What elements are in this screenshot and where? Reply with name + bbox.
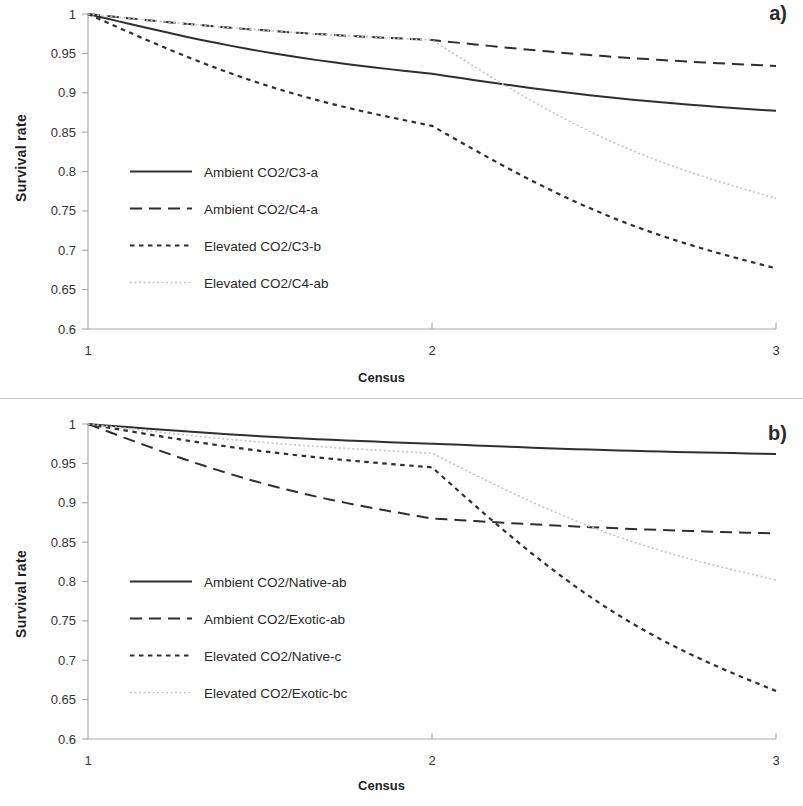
x-tick-label: 1 <box>84 343 91 358</box>
legend-label: Elevated CO2/Exotic-bc <box>204 686 348 701</box>
panel-a: a) Survival rate Census 10.950.90.850.80… <box>0 0 803 400</box>
legend-label: Ambient CO2/C3-a <box>204 165 319 180</box>
legend-label: Elevated CO2/C4-ab <box>204 276 329 291</box>
y-tick-label: 0.95 <box>51 456 76 471</box>
series-line <box>88 424 776 454</box>
y-tick-label: 0.85 <box>51 125 76 140</box>
y-tick-label: 0.6 <box>58 322 76 337</box>
y-tick-label: 0.65 <box>51 282 76 297</box>
panel-b-plot: 10.950.90.850.80.750.70.650.6123Ambient … <box>0 400 803 770</box>
panel-a-plot: 10.950.90.850.80.750.70.650.6123Ambient … <box>0 0 803 360</box>
legend-label: Elevated CO2/Native-c <box>204 649 342 664</box>
y-tick-label: 0.6 <box>58 732 76 747</box>
series-line <box>88 424 776 580</box>
y-tick-label: 0.7 <box>58 243 76 258</box>
y-tick-label: 0.7 <box>58 653 76 668</box>
y-tick-label: 0.75 <box>51 203 76 218</box>
x-tick-label: 1 <box>84 753 91 768</box>
legend-label: Ambient CO2/Exotic-ab <box>204 612 345 627</box>
y-tick-label: 0.75 <box>51 613 76 628</box>
y-tick-label: 0.95 <box>51 46 76 61</box>
panel-b-x-axis-label: Census <box>0 778 783 793</box>
panel-divider <box>0 398 803 399</box>
y-tick-label: 0.8 <box>58 164 76 179</box>
x-tick-label: 2 <box>428 753 435 768</box>
series-line <box>88 14 776 268</box>
series-line <box>88 14 776 111</box>
legend-label: Elevated CO2/C3-b <box>204 239 321 254</box>
y-tick-label: 1 <box>69 417 76 432</box>
panel-b: b) Survival rate Census 10.950.90.850.80… <box>0 400 803 806</box>
legend-label: Ambient CO2/Native-ab <box>204 575 347 590</box>
survival-rate-figure: a) Survival rate Census 10.950.90.850.80… <box>0 0 803 806</box>
panel-a-x-axis-label: Census <box>0 370 783 385</box>
series-line <box>88 424 776 691</box>
x-tick-label: 3 <box>772 753 779 768</box>
y-tick-label: 0.9 <box>58 85 76 100</box>
y-tick-label: 0.65 <box>51 692 76 707</box>
y-tick-label: 0.85 <box>51 535 76 550</box>
y-tick-label: 0.8 <box>58 574 76 589</box>
legend: Ambient CO2/Native-abAmbient CO2/Exotic-… <box>130 575 348 701</box>
y-tick-label: 1 <box>69 7 76 22</box>
series-line <box>88 424 776 533</box>
legend: Ambient CO2/C3-aAmbient CO2/C4-aElevated… <box>130 165 329 291</box>
legend-label: Ambient CO2/C4-a <box>204 202 319 217</box>
x-tick-label: 2 <box>428 343 435 358</box>
x-tick-label: 3 <box>772 343 779 358</box>
y-tick-label: 0.9 <box>58 495 76 510</box>
